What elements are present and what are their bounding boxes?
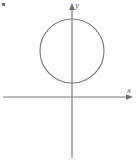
x-axis-label: x bbox=[127, 86, 131, 95]
y-axis-label: y bbox=[75, 1, 79, 10]
y-axis-arrow-icon bbox=[69, 3, 75, 10]
plot-canvas bbox=[0, 0, 138, 160]
coordinate-plane-figure: y x bbox=[0, 0, 138, 160]
x-axis-arrow-icon bbox=[126, 94, 133, 100]
